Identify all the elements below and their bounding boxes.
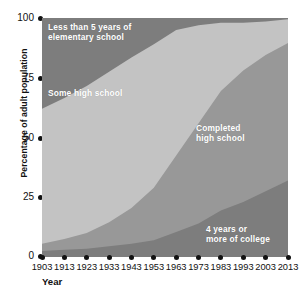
x-tick-label: 2013 (271, 262, 305, 272)
y-tick-label-75: 75 (6, 72, 34, 83)
x-tick-dot (129, 255, 134, 260)
plot-area (42, 18, 288, 257)
x-tick-dot (174, 255, 179, 260)
x-tick-dot (151, 255, 156, 260)
x-tick-dot (241, 255, 246, 260)
x-tick-dot (84, 255, 89, 260)
x-tick-dot (218, 255, 223, 260)
y-tick-label-0: 0 (6, 250, 34, 261)
y-tick-label-25: 25 (6, 191, 34, 202)
x-tick-dot (40, 255, 45, 260)
series-label-some-high-school: Some high school (48, 88, 123, 98)
x-tick-dot (196, 255, 201, 260)
x-axis-title: Year (42, 276, 62, 287)
series-label-completed-high-school: Completed high school (196, 123, 245, 144)
y-tick-label-100: 100 (6, 12, 34, 23)
x-tick-dot (263, 255, 268, 260)
x-tick-dot (286, 255, 291, 260)
stacked-area-bands (42, 18, 288, 257)
area-chart: Percentage of adult population 100 75 50… (0, 0, 306, 292)
series-label-college: 4 years or more of college (206, 224, 270, 245)
y-axis-title: Percentage of adult population (19, 33, 29, 193)
x-tick-dot (107, 255, 112, 260)
series-label-elementary: Less than 5 years of elementary school (48, 22, 132, 43)
y-tick-label-50: 50 (6, 132, 34, 143)
x-tick-dot (62, 255, 67, 260)
